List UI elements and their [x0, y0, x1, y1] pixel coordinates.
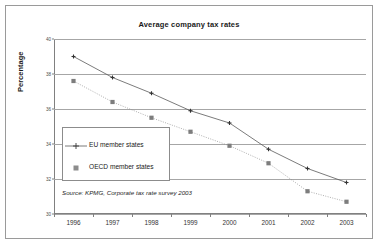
x-tick-mark-1 — [93, 214, 94, 217]
chart-title: Average company tax rates — [6, 20, 372, 29]
x-tick-label-1999: 1999 — [183, 219, 197, 226]
x-tick-mark-3 — [171, 214, 172, 217]
y-tick-label-38: 38 — [46, 72, 51, 77]
series-marker-oecd-member-states-1996 — [71, 79, 75, 83]
y-tick-label-32: 32 — [46, 177, 51, 182]
x-tick-mark-6 — [288, 214, 289, 217]
series-marker-eu-member-states-1998 — [150, 91, 154, 95]
y-tick-label-36: 36 — [46, 107, 51, 112]
legend-label-oecd: OECD member states — [89, 163, 154, 170]
y-axis-title: Percentage — [16, 52, 25, 92]
x-tick-label-2000: 2000 — [222, 219, 236, 226]
series-marker-eu-member-states-1997 — [111, 76, 115, 80]
chart-figure: Average company tax rates Percentage 303… — [5, 5, 373, 239]
x-tick-label-2003: 2003 — [339, 219, 353, 226]
source-note: Source: KPMG, Corporate tax rate survey … — [62, 189, 192, 196]
x-tick-mark-8 — [366, 214, 367, 217]
x-tick-label-1996: 1996 — [66, 219, 80, 226]
x-tick-mark-7 — [327, 214, 328, 217]
legend-key-oecd-square-icon — [63, 160, 89, 172]
series-marker-eu-member-states-2002 — [306, 167, 310, 171]
series-marker-eu-member-states-1996 — [72, 55, 76, 59]
x-tick-mark-0 — [54, 214, 55, 217]
plot-area: 303234363840 199619971998199920002001200… — [54, 39, 366, 214]
series-marker-oecd-member-states-1997 — [110, 100, 114, 104]
series-marker-oecd-member-states-1999 — [188, 130, 192, 134]
x-tick-label-2002: 2002 — [300, 219, 314, 226]
x-tick-mark-2 — [132, 214, 133, 217]
legend-label-eu: EU member states — [89, 141, 144, 148]
series-marker-oecd-member-states-2001 — [266, 161, 270, 165]
series-marker-oecd-member-states-2003 — [344, 200, 348, 204]
chart-legend: EU member states OECD member states — [62, 127, 170, 181]
series-marker-oecd-member-states-2000 — [227, 144, 231, 148]
legend-key-eu-line-cross-icon — [63, 138, 89, 150]
legend-item-eu: EU member states — [63, 136, 169, 152]
x-tick-label-1998: 1998 — [144, 219, 158, 226]
x-tick-label-1997: 1997 — [105, 219, 119, 226]
y-tick-label-30: 30 — [46, 212, 51, 217]
legend-item-oecd: OECD member states — [63, 158, 169, 174]
y-tick-label-34: 34 — [46, 142, 51, 147]
series-marker-oecd-member-states-2002 — [305, 189, 309, 193]
series-marker-oecd-member-states-1998 — [149, 116, 153, 120]
series-marker-eu-member-states-1999 — [189, 109, 193, 113]
series-marker-eu-member-states-2003 — [345, 181, 349, 185]
y-tick-label-40: 40 — [46, 37, 51, 42]
x-tick-mark-4 — [210, 214, 211, 217]
x-tick-mark-5 — [249, 214, 250, 217]
x-tick-label-2001: 2001 — [261, 219, 275, 226]
